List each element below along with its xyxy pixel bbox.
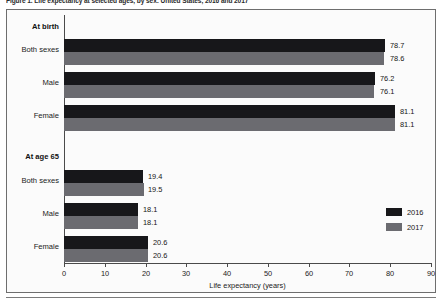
bar-birth-both-2016 [64, 39, 385, 52]
x-axis-title: Life expectancy (years) [64, 281, 431, 290]
x-tick-30 [186, 263, 187, 267]
bar-value-birth-female-2017: 81.1 [400, 118, 414, 131]
category-label-age65-female: Female [0, 242, 59, 251]
bar-value-age65-male-2016: 18.1 [143, 203, 157, 216]
x-tick-label-30: 30 [171, 269, 201, 278]
bar-value-age65-female-2016: 20.6 [153, 236, 167, 249]
bar-age65-male-2017 [64, 216, 138, 229]
figure-caption: Figure 1. Life expectancy at selected ag… [6, 0, 436, 5]
x-tick-70 [349, 263, 350, 267]
bar-birth-both-2017 [64, 52, 384, 65]
group-header-at-birth: At birth [0, 22, 59, 31]
x-tick-40 [227, 263, 228, 267]
bar-age65-female-2016 [64, 236, 148, 249]
bar-value-age65-both-2017: 19.5 [148, 183, 162, 196]
bar-birth-male-2017 [64, 85, 374, 98]
legend-swatch-2016-icon [386, 208, 402, 216]
chart-frame: At birth Both sexes Male Female At age 6… [6, 9, 436, 293]
legend-label-2016: 2016 [407, 208, 423, 217]
bar-age65-male-2016 [64, 203, 138, 216]
x-tick-0 [64, 263, 65, 267]
x-tick-label-80: 80 [375, 269, 405, 278]
bar-age65-both-2016 [64, 170, 143, 183]
legend-item-2016: 2016 [386, 206, 423, 218]
x-tick-label-90: 90 [416, 269, 442, 278]
bar-value-age65-both-2016: 19.4 [148, 170, 162, 183]
bar-age65-both-2017 [64, 183, 144, 196]
x-tick-50 [268, 263, 269, 267]
bar-value-age65-male-2017: 18.1 [143, 216, 157, 229]
x-tick-60 [309, 263, 310, 267]
chart-legend: 2016 2017 [386, 206, 423, 236]
bar-value-birth-female-2016: 81.1 [400, 105, 414, 118]
category-label-birth-male: Male [0, 78, 59, 87]
group-header-at-age-65: At age 65 [0, 152, 59, 161]
plot-area: At birth Both sexes Male Female At age 6… [64, 15, 431, 263]
x-tick-label-20: 20 [131, 269, 161, 278]
bar-value-birth-male-2017: 76.1 [380, 85, 394, 98]
x-tick-label-40: 40 [212, 269, 242, 278]
bar-value-age65-female-2017: 20.6 [153, 249, 167, 262]
bar-birth-male-2016 [64, 72, 375, 85]
x-tick-80 [390, 263, 391, 267]
legend-swatch-2017-icon [386, 223, 402, 231]
bar-value-birth-male-2016: 76.2 [380, 72, 394, 85]
x-tick-20 [146, 263, 147, 267]
x-tick-label-10: 10 [90, 269, 120, 278]
legend-item-2017: 2017 [386, 221, 423, 233]
legend-label-2017: 2017 [407, 223, 423, 232]
category-label-age65-male: Male [0, 209, 59, 218]
x-axis-line [64, 263, 431, 264]
bar-value-birth-both-2017: 78.6 [390, 52, 404, 65]
bar-age65-female-2017 [64, 249, 148, 262]
x-tick-label-70: 70 [334, 269, 364, 278]
bottom-rule [6, 297, 436, 298]
bar-value-birth-both-2016: 78.7 [390, 39, 404, 52]
x-tick-90 [431, 263, 432, 267]
category-label-birth-both-sexes: Both sexes [0, 45, 59, 54]
x-tick-label-60: 60 [294, 269, 324, 278]
x-tick-label-0: 0 [49, 269, 79, 278]
category-labels-column: At birth Both sexes Male Female At age 6… [0, 15, 59, 263]
bar-birth-female-2017 [64, 118, 395, 131]
x-tick-10 [105, 263, 106, 267]
category-label-birth-female: Female [0, 111, 59, 120]
x-tick-label-50: 50 [253, 269, 283, 278]
bar-birth-female-2016 [64, 105, 395, 118]
category-label-age65-both-sexes: Both sexes [0, 176, 59, 185]
